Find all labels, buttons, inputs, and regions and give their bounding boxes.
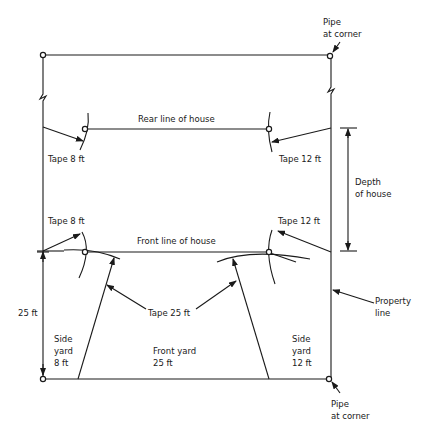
label-rear-line: Rear line of house bbox=[138, 113, 215, 125]
left-property-line bbox=[40, 55, 46, 379]
stake-front-left bbox=[82, 249, 87, 254]
label-front-yard-1: Front yard bbox=[153, 345, 196, 357]
stake-front-right bbox=[266, 249, 271, 254]
tape-8-front-arrow bbox=[43, 234, 80, 251]
label-side-yard-left-1: Side bbox=[54, 333, 73, 345]
tape-25-right-line bbox=[233, 259, 269, 379]
label-side-yard-right-2: yard bbox=[292, 345, 312, 357]
label-depth: Depth of house bbox=[355, 176, 392, 200]
pipe-bottom-pointer bbox=[332, 382, 340, 393]
tape-12-rear-arrow bbox=[272, 128, 331, 142]
label-tape-12-front: Tape 12 ft bbox=[278, 215, 320, 227]
label-pipe-top-line1: Pipe bbox=[323, 16, 362, 28]
pipe-top-pointer bbox=[333, 42, 340, 52]
label-tape-12-rear: Tape 12 ft bbox=[279, 153, 321, 165]
tape-25-left-line bbox=[78, 258, 114, 379]
label-side-yard-left: Side yard 8 ft bbox=[54, 333, 73, 369]
label-pipe-bottom: Pipe at corner bbox=[331, 398, 370, 422]
property-line-pointer bbox=[333, 290, 374, 303]
tape-8-rear-arrow bbox=[43, 127, 83, 141]
pipe-top-right bbox=[327, 53, 332, 58]
label-tape-8-front: Tape 8 ft bbox=[48, 215, 85, 227]
tape-25-right-pointer bbox=[196, 281, 236, 309]
pipe-top-left bbox=[40, 52, 45, 57]
label-front-yard-2: 25 ft bbox=[153, 357, 196, 369]
stake-rear-left bbox=[82, 126, 87, 131]
label-pipe-bottom-line2: at corner bbox=[331, 410, 370, 422]
label-side-yard-right-1: Side bbox=[292, 333, 312, 345]
label-side-yard-right-3: 12 ft bbox=[292, 357, 312, 369]
label-tape-8-rear: Tape 8 ft bbox=[48, 153, 85, 165]
pipe-bottom-right bbox=[326, 376, 331, 381]
tape-25-left-pointer bbox=[107, 285, 146, 309]
pipe-bottom-left bbox=[40, 376, 45, 381]
label-depth-line1: Depth bbox=[355, 176, 392, 188]
label-property-line2: line bbox=[375, 307, 411, 319]
label-side-yard-left-3: 8 ft bbox=[54, 357, 73, 369]
label-front-line: Front line of house bbox=[137, 235, 216, 247]
right-property-line bbox=[328, 55, 334, 379]
label-property-line1: Property bbox=[375, 295, 411, 307]
arc-front-left-25 bbox=[64, 250, 120, 259]
lot-layout-diagram: Pipe at corner Rear line of house Tape 8… bbox=[0, 0, 432, 444]
stake-rear-right bbox=[266, 126, 271, 131]
tape-12-front-arrow bbox=[278, 231, 331, 252]
label-side-yard-left-2: yard bbox=[54, 345, 73, 357]
label-pipe-top-line2: at corner bbox=[323, 28, 362, 40]
label-property-line: Property line bbox=[375, 295, 411, 319]
label-pipe-top: Pipe at corner bbox=[323, 16, 362, 40]
label-tape-25: Tape 25 ft bbox=[148, 307, 190, 319]
arc-front-right-vertical bbox=[269, 230, 275, 284]
label-setback-25ft: 25 ft bbox=[18, 307, 38, 319]
label-side-yard-right: Side yard 12 ft bbox=[292, 333, 312, 369]
label-front-yard: Front yard 25 ft bbox=[153, 345, 196, 369]
label-pipe-bottom-line1: Pipe bbox=[331, 398, 370, 410]
label-depth-line2: of house bbox=[355, 188, 392, 200]
arc-front-right-25 bbox=[217, 254, 310, 262]
